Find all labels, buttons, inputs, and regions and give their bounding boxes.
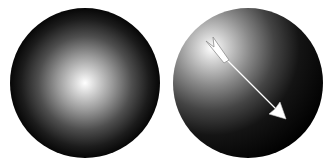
sphere-centered-light <box>10 8 160 158</box>
sphere-directional-light <box>173 8 323 158</box>
shading-diagram <box>0 0 335 166</box>
